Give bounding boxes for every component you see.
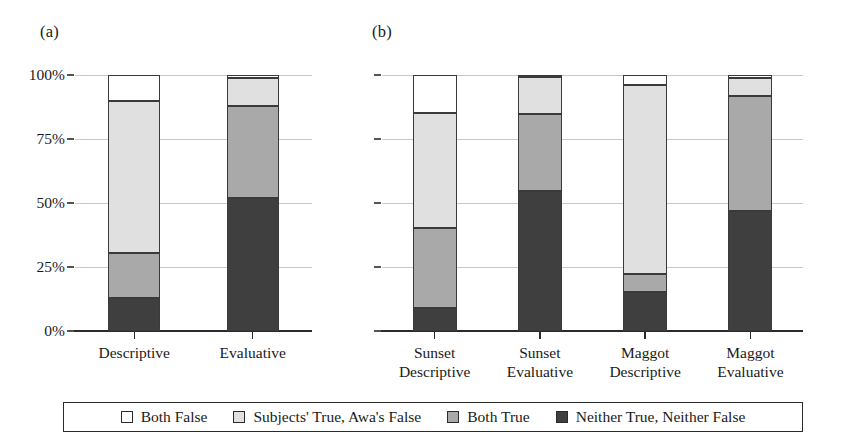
bar-segment[interactable] — [227, 75, 279, 78]
legend-label: Subjects' True, Awa's False — [253, 408, 421, 426]
bar-segment[interactable] — [728, 211, 772, 331]
legend-item[interactable]: Subjects' True, Awa's False — [233, 408, 421, 426]
bar-segment[interactable] — [728, 75, 772, 78]
bar-segment[interactable] — [108, 298, 160, 331]
legend-swatch-icon — [556, 411, 568, 423]
bar-segment[interactable] — [227, 78, 279, 106]
legend-item[interactable]: Both True — [447, 408, 529, 426]
y-axis-label-100: 100% — [29, 66, 65, 84]
x-axis-category-label: Evaluative — [220, 343, 286, 362]
y-axis-label-0: 0% — [44, 322, 65, 340]
bar-evaluative[interactable] — [227, 75, 279, 331]
bar-segment[interactable] — [518, 114, 562, 191]
panel-a-label: (a) — [40, 22, 59, 42]
legend-swatch-icon — [233, 411, 245, 423]
y-tick-mark-50 — [67, 202, 74, 203]
bar-maggot-descriptive[interactable] — [623, 75, 667, 331]
panel-a-plot-area: 100%75%50%25%0%DescriptiveEvaluative — [75, 75, 312, 331]
y-axis-label-25: 25% — [37, 258, 65, 276]
y-axis-label-75: 75% — [37, 130, 65, 148]
bar-segment[interactable] — [623, 274, 667, 292]
panel-b: (b) Sunset DescriptiveSunset EvaluativeM… — [360, 0, 867, 390]
y-tick-mark-50 — [374, 202, 381, 203]
bar-sunset-evaluative[interactable] — [518, 75, 562, 331]
x-tick-mark — [539, 332, 540, 339]
legend-swatch-icon — [447, 411, 459, 423]
bar-segment[interactable] — [227, 198, 279, 331]
bar-segment[interactable] — [518, 75, 562, 77]
y-tick-mark-25 — [67, 266, 74, 267]
y-tick-mark-100 — [374, 74, 381, 75]
bar-segment[interactable] — [108, 101, 160, 253]
bar-segment[interactable] — [413, 75, 457, 113]
bar-segment[interactable] — [518, 191, 562, 331]
x-axis-category-label: Maggot Descriptive — [609, 343, 680, 382]
x-tick-mark — [750, 332, 751, 339]
bar-sunset-descriptive[interactable] — [413, 75, 457, 331]
x-tick-mark — [134, 332, 135, 339]
y-tick-mark-0 — [374, 330, 381, 331]
y-axis-label-50: 50% — [37, 194, 65, 212]
bar-segment[interactable] — [728, 78, 772, 96]
stacked-bar-figure: (a) 100%75%50%25%0%DescriptiveEvaluative… — [0, 0, 867, 443]
legend-label: Both True — [467, 408, 529, 426]
x-tick-mark — [644, 332, 645, 339]
legend-label: Neither True, Neither False — [576, 408, 746, 426]
bar-segment[interactable] — [623, 292, 667, 331]
panel-b-plot-area: Sunset DescriptiveSunset EvaluativeMaggo… — [382, 75, 803, 331]
legend: Both FalseSubjects' True, Awa's FalseBot… — [63, 402, 803, 432]
bar-descriptive[interactable] — [108, 75, 160, 331]
x-axis-category-label: Maggot Evaluative — [717, 343, 783, 382]
panel-a: (a) 100%75%50%25%0%DescriptiveEvaluative — [0, 0, 360, 390]
x-tick-mark — [252, 332, 253, 339]
bar-segment[interactable] — [108, 75, 160, 101]
legend-label: Both False — [141, 408, 208, 426]
legend-swatch-icon — [121, 411, 133, 423]
bar-segment[interactable] — [227, 106, 279, 198]
legend-item[interactable]: Both False — [121, 408, 208, 426]
y-tick-mark-100 — [67, 74, 74, 75]
y-tick-mark-25 — [374, 266, 381, 267]
bar-maggot-evaluative[interactable] — [728, 75, 772, 331]
bar-segment[interactable] — [413, 228, 457, 307]
bar-segment[interactable] — [623, 75, 667, 85]
x-tick-mark — [434, 332, 435, 339]
bar-segment[interactable] — [728, 96, 772, 211]
y-tick-mark-75 — [374, 138, 381, 139]
bar-segment[interactable] — [108, 253, 160, 298]
x-axis-category-label: Sunset Evaluative — [507, 343, 573, 382]
panel-b-label: (b) — [372, 22, 392, 42]
bar-segment[interactable] — [413, 113, 457, 229]
y-tick-mark-75 — [67, 138, 74, 139]
y-tick-mark-0 — [67, 330, 74, 331]
x-axis-category-label: Sunset Descriptive — [399, 343, 470, 382]
bar-segment[interactable] — [518, 77, 562, 114]
x-axis-category-label: Descriptive — [99, 343, 170, 362]
bar-segment[interactable] — [623, 85, 667, 274]
bar-segment[interactable] — [413, 308, 457, 331]
legend-item[interactable]: Neither True, Neither False — [556, 408, 746, 426]
